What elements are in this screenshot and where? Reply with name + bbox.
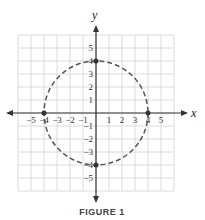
y-tick-label: −5 — [83, 173, 93, 183]
x-tick-label: 3 — [133, 115, 138, 125]
x-axis-arrow-left-icon — [6, 110, 13, 116]
x-tick-label: 1 — [107, 115, 112, 125]
point-marker — [94, 163, 99, 168]
y-tick-label: −3 — [83, 147, 93, 157]
x-tick-label: 5 — [159, 115, 164, 125]
y-axis-arrow-down-icon — [93, 196, 99, 203]
y-tick-label: −2 — [83, 134, 93, 144]
y-tick-label: 5 — [89, 43, 94, 53]
y-axis-arrow-up-icon — [93, 25, 99, 32]
x-axis-label: x — [190, 106, 197, 120]
point-marker — [94, 59, 99, 64]
x-tick-labels: −5−4−3−2−112345 — [26, 115, 164, 125]
y-tick-label: 1 — [89, 95, 94, 105]
x-tick-label: −2 — [65, 115, 75, 125]
x-tick-label: 2 — [120, 115, 125, 125]
y-axis-label: y — [91, 8, 98, 22]
x-tick-label: −4 — [39, 115, 49, 125]
figure-canvas: −5−4−3−2−112345 54321−1−2−3−4−5 x y FIGU… — [0, 0, 205, 220]
figure-caption: FIGURE 1 — [79, 207, 125, 217]
x-tick-label: −5 — [26, 115, 36, 125]
y-tick-label: 3 — [89, 69, 94, 79]
x-tick-label: 4 — [146, 115, 151, 125]
y-tick-label: 4 — [89, 56, 94, 66]
y-tick-label: −4 — [83, 160, 93, 170]
y-tick-label: 2 — [89, 82, 94, 92]
x-tick-label: −3 — [52, 115, 62, 125]
x-axis-arrow-right-icon — [181, 110, 188, 116]
y-tick-label: −1 — [83, 121, 93, 131]
